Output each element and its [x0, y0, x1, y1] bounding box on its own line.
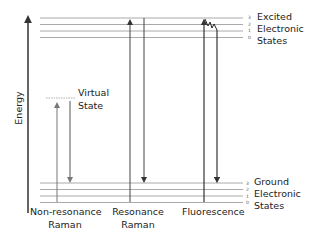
excited-level-1: 1	[248, 28, 251, 33]
non-resonance-raman-arrows	[57, 101, 70, 202]
excited-level-0: 0	[248, 35, 251, 40]
ground-label-line-3: States	[254, 200, 284, 212]
non-resonance-raman-label-1: Non-resonance	[30, 206, 100, 218]
excited-label-line-1: Excited	[257, 11, 292, 23]
ground-level-2: 2	[246, 187, 249, 192]
virtual-label-line-1: Virtual	[78, 87, 109, 99]
excited-level-2: 2	[248, 22, 251, 27]
non-resonance-raman-label-2: Raman	[30, 219, 100, 231]
excited-label-line-3: States	[257, 35, 287, 47]
excited-label-line-2: Electronic	[257, 23, 304, 35]
resonance-raman-label-2: Raman	[108, 219, 168, 231]
jablonski-diagram: Energy 3 2 1 0 Excited Electronic States…	[0, 0, 313, 237]
ground-state-levels	[40, 183, 243, 203]
fluorescence-arrows	[204, 19, 217, 202]
ground-label-line-1: Ground	[254, 176, 289, 188]
ground-label-line-2: Electronic	[254, 188, 301, 200]
ground-level-0: 0	[246, 200, 249, 205]
energy-axis-label: Energy	[13, 88, 25, 128]
ground-level-3: 3	[246, 181, 249, 186]
ground-level-1: 1	[246, 194, 249, 199]
excited-level-3: 3	[248, 15, 251, 20]
resonance-raman-label-1: Resonance	[108, 206, 168, 218]
fluorescence-label: Fluorescence	[182, 206, 242, 218]
virtual-label-line-2: State	[78, 100, 103, 112]
resonance-raman-arrows	[130, 18, 144, 202]
